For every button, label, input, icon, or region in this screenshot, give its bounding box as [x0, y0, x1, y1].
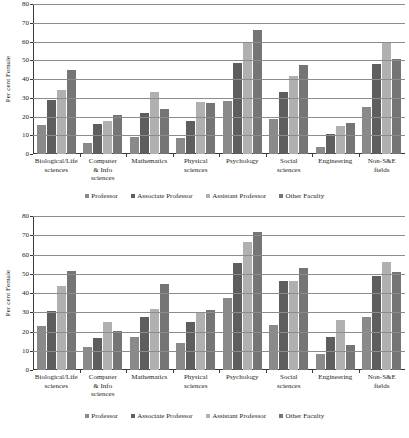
x-axis-label-line: sciences: [174, 166, 219, 175]
x-axis-label-line: Psychology: [220, 373, 265, 382]
bar: [93, 124, 102, 154]
grid-line: [33, 4, 405, 5]
y-tick-label: 70: [22, 19, 29, 26]
y-tick-label: 70: [22, 232, 29, 239]
x-axis-label-line: sciences: [81, 390, 126, 399]
legend-swatch-icon: [279, 194, 283, 198]
legend-swatch-icon: [131, 194, 135, 198]
bar: [253, 232, 262, 370]
legend-item[interactable]: Professor: [85, 192, 118, 200]
legend-swatch-icon: [85, 194, 89, 198]
bar: [382, 262, 391, 370]
y-tick-label: 40: [22, 290, 29, 297]
legend-item[interactable]: Assistant Professor: [206, 412, 266, 420]
legend-item[interactable]: Associate Professor: [131, 192, 193, 200]
x-axis-label-line: Mathematics: [127, 157, 172, 166]
y-tick-mark: [30, 79, 33, 80]
y-tick-mark: [30, 293, 33, 294]
x-axis-label-line: sciences: [267, 382, 312, 391]
bar: [37, 326, 46, 370]
x-axis-label: Computer& Infosciences: [80, 157, 127, 183]
y-tick-mark: [30, 117, 33, 118]
x-axis-label-line: fields: [360, 166, 405, 175]
legend-label: Assistant Professor: [212, 412, 266, 420]
legend-label: Associate Professor: [137, 412, 192, 420]
y-tick-label: 0: [26, 151, 30, 158]
bar: [392, 272, 401, 370]
bar: [47, 311, 56, 370]
x-axis-label: Engineering: [312, 157, 359, 183]
bar: [130, 137, 139, 154]
bar: [289, 281, 298, 370]
bar: [269, 119, 278, 154]
bar: [67, 271, 76, 370]
legend-item[interactable]: Other Faculty: [279, 192, 324, 200]
y-tick-label: 80: [22, 1, 29, 8]
x-axis-label: Mathematics: [126, 373, 173, 399]
x-axis-label-line: Physical: [174, 373, 219, 382]
legend-swatch-icon: [279, 414, 283, 418]
bar: [336, 320, 345, 370]
x-axis-label-line: fields: [360, 382, 405, 391]
bar: [346, 123, 355, 154]
legend-label: Assistant Professor: [212, 192, 266, 200]
bar: [140, 317, 149, 370]
y-axis-title-top: Per cent Female: [2, 4, 14, 154]
legend-bottom: ProfessorAssociate ProfessorAssistant Pr…: [0, 412, 409, 420]
x-axis-label-line: & Info: [81, 166, 126, 175]
bar: [160, 284, 169, 370]
x-axis-label-line: Biological/Life: [34, 157, 79, 166]
y-tick-label: 50: [22, 57, 29, 64]
bar: [223, 101, 232, 154]
bar: [316, 147, 325, 154]
grid-line: [33, 332, 405, 333]
grid-line: [33, 312, 405, 313]
legend-item[interactable]: Associate Professor: [131, 412, 193, 420]
legend-item[interactable]: Other Faculty: [279, 412, 324, 420]
bar: [186, 121, 195, 154]
grid-line: [33, 293, 405, 294]
x-axis-label-line: sciences: [174, 382, 219, 391]
bar: [336, 126, 345, 154]
bar: [186, 322, 195, 370]
grid-line: [33, 79, 405, 80]
y-tick-label: 60: [22, 38, 29, 45]
legend-item[interactable]: Assistant Professor: [206, 192, 266, 200]
x-axis-label-line: Non-S&E: [360, 157, 405, 166]
bar: [372, 276, 381, 370]
grid-line: [33, 42, 405, 43]
legend-swatch-icon: [131, 414, 135, 418]
bar: [176, 138, 185, 154]
legend-swatch-icon: [85, 414, 89, 418]
bar: [57, 286, 66, 370]
bar: [316, 354, 325, 370]
grid-line: [33, 135, 405, 136]
y-tick-mark: [30, 370, 33, 371]
x-axis-label-line: sciences: [81, 174, 126, 183]
grid-line: [33, 60, 405, 61]
bar: [372, 64, 381, 154]
x-axis-label-line: Social: [267, 157, 312, 166]
y-tick-label: 80: [22, 213, 29, 220]
bar: [362, 107, 371, 154]
bar: [150, 92, 159, 154]
y-tick-label: 10: [22, 132, 29, 139]
x-axis-label: Physicalsciences: [173, 373, 220, 399]
y-tick-label: 60: [22, 251, 29, 258]
legend-label: Other Faculty: [286, 412, 325, 420]
x-axis-label-line: sciences: [267, 166, 312, 175]
figure-two-bar-charts: Per cent Female 01020304050607080 Biolog…: [0, 0, 409, 438]
y-tick-label: 30: [22, 94, 29, 101]
bar: [103, 322, 112, 370]
bar: [37, 125, 46, 154]
legend-item[interactable]: Professor: [85, 412, 118, 420]
bar: [233, 263, 242, 370]
x-axis-label-line: Non-S&E: [360, 373, 405, 382]
x-axis-label-line: & Info: [81, 382, 126, 391]
bar: [346, 345, 355, 370]
x-axis-label: Biological/Lifesciences: [33, 157, 80, 183]
x-axis-label-line: Computer: [81, 373, 126, 382]
x-axis-label: Biological/Lifesciences: [33, 373, 80, 399]
bar: [93, 338, 102, 370]
bar: [130, 337, 139, 370]
